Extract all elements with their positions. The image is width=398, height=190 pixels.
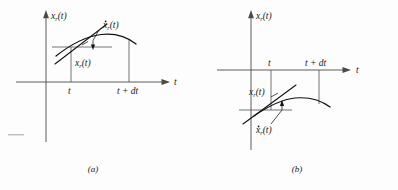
horizontal-axis-label-b: t <box>356 65 359 75</box>
panel-a: xr(t) t xr(t) xr(t) <box>0 0 199 190</box>
derivative-leader-b <box>271 106 282 124</box>
horizontal-axis-b <box>217 67 351 73</box>
svg-text:xr(t): xr(t) <box>102 20 119 31</box>
vertical-axis-label-b: xr(t) <box>255 11 272 22</box>
tick-label-tdt-b: t + dt <box>305 58 327 68</box>
vertical-axis-label-a: xr(t) <box>50 11 67 22</box>
svg-text:xr(t): xr(t) <box>255 125 272 136</box>
derivative-label-b: xr(t) <box>255 125 272 136</box>
panel-b-diagram: xr(t) t xr(t) xr(t) <box>199 0 398 190</box>
derivative-label-a: xr(t) <box>102 20 119 31</box>
tick-label-tdt-a: t + dt <box>117 86 139 96</box>
scan-artifact <box>8 133 28 139</box>
vertical-axis-b <box>248 10 254 150</box>
value-label-b: xr(t) <box>248 87 265 98</box>
vertical-axis-a <box>43 10 49 142</box>
panel-caption-b: (b) <box>292 164 303 174</box>
curve-xr-a <box>56 34 136 56</box>
tick-label-t-b: t <box>268 58 271 68</box>
panel-caption-a: (a) <box>88 164 99 174</box>
overdot-b <box>258 126 260 128</box>
figure-root: xr(t) t xr(t) xr(t) <box>0 0 398 190</box>
slope-angle-tick-b <box>271 93 278 97</box>
tick-label-t-a: t <box>68 86 71 96</box>
horizontal-axis-label-a: t <box>174 77 177 87</box>
panel-b: xr(t) t xr(t) xr(t) <box>199 0 398 190</box>
overdot-a <box>105 21 107 23</box>
horizontal-axis-a <box>16 79 170 85</box>
curve-xr-b <box>254 98 330 116</box>
panel-a-diagram: xr(t) t xr(t) xr(t) <box>0 0 199 190</box>
value-label-a: xr(t) <box>74 58 91 69</box>
